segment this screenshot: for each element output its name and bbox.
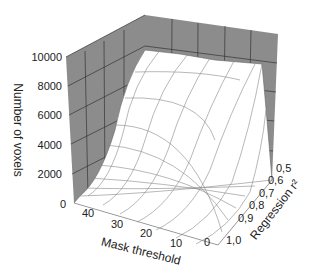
- z-tick: 4000: [38, 139, 62, 151]
- z-tick: 0: [60, 198, 66, 210]
- z-tick: 2000: [38, 168, 62, 180]
- z-tick: 6000: [38, 109, 62, 121]
- x-tick: 40: [82, 207, 94, 219]
- y-tick: 0,8: [249, 199, 264, 211]
- x-tick: 10: [170, 237, 182, 249]
- surface-chart: 10000 8000 6000 4000 2000 0 Number of vo…: [0, 0, 311, 270]
- y-tick: 0,5: [276, 162, 291, 174]
- y-tick: 0,7: [259, 187, 274, 199]
- z-tick: 10000: [31, 51, 62, 63]
- y-tick: 0,9: [238, 212, 253, 224]
- x-tick: 30: [111, 218, 123, 230]
- y-tick: 1,0: [226, 234, 241, 246]
- z-axis-ticks: 10000 8000 6000 4000 2000 0: [31, 51, 66, 210]
- y-tick: 0,6: [268, 174, 283, 186]
- x-tick: 20: [140, 227, 152, 239]
- z-axis-label: Number of voxels: [11, 83, 25, 176]
- z-tick: 8000: [38, 80, 62, 92]
- x-tick: 0: [204, 236, 210, 248]
